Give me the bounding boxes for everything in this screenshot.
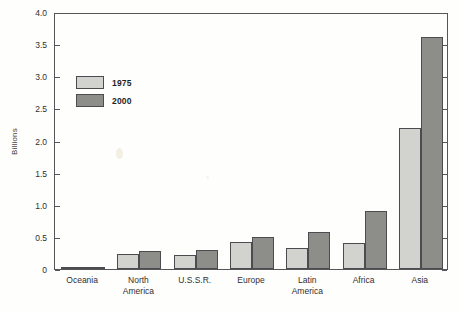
bar-1975 — [286, 248, 308, 269]
paper-speck — [206, 176, 209, 179]
legend-label: 1975 — [112, 78, 132, 88]
y-tick-label: 1.5 — [35, 169, 47, 179]
bar-group — [174, 14, 218, 269]
bar-group — [399, 14, 443, 269]
bar-group — [343, 14, 387, 269]
bar-group — [286, 14, 330, 269]
y-tick-label: 2.5 — [35, 104, 47, 114]
bar-series-container — [55, 14, 447, 269]
paper-speck — [116, 148, 123, 159]
figure-caption — [42, 306, 422, 312]
plot-area: 00.51.01.52.02.53.03.54.0 — [54, 13, 448, 270]
y-tick-mark-right — [442, 270, 447, 271]
bar-2000 — [421, 37, 443, 269]
y-tick-label: 3.5 — [35, 40, 47, 50]
x-axis-label: Asia — [380, 275, 460, 286]
bar-1975 — [343, 243, 365, 269]
y-tick-label: 4.0 — [35, 8, 47, 18]
bar-chart-figure: Billions 00.51.01.52.02.53.03.54.0 Ocean… — [0, 0, 461, 312]
y-tick-label: 3.0 — [35, 72, 47, 82]
bar-group — [61, 14, 105, 269]
bar-1975 — [399, 128, 421, 269]
bar-1975 — [61, 267, 83, 269]
legend-label: 2000 — [112, 96, 132, 106]
bar-1975 — [230, 242, 252, 269]
y-tick-label: 2.0 — [35, 137, 47, 147]
y-tick-label: 0.5 — [35, 233, 47, 243]
bar-2000 — [196, 250, 218, 269]
bar-2000 — [83, 267, 105, 269]
legend-swatch — [76, 94, 104, 107]
bar-1975 — [174, 255, 196, 269]
bar-2000 — [252, 237, 274, 269]
bar-group — [117, 14, 161, 269]
legend-swatch — [76, 76, 104, 89]
y-tick-label: 0 — [42, 265, 47, 275]
bar-1975 — [117, 254, 139, 269]
bar-2000 — [365, 211, 387, 269]
bar-group — [230, 14, 274, 269]
y-tick-mark-left — [55, 270, 60, 271]
bar-2000 — [308, 232, 330, 269]
y-tick-label: 1.0 — [35, 201, 47, 211]
bar-2000 — [139, 251, 161, 269]
y-axis-title: Billions — [10, 106, 19, 178]
